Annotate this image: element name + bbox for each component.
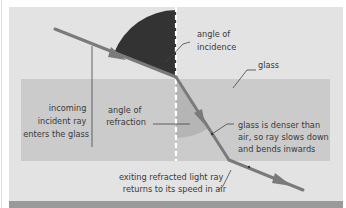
- leader-dot-exit: [248, 166, 250, 168]
- leader-dot-refracted: [211, 133, 213, 135]
- label-glass: glass: [258, 60, 279, 70]
- bottom-strip: [9, 201, 343, 208]
- refraction-diagram: angle of incidence glass incoming incide…: [0, 0, 346, 208]
